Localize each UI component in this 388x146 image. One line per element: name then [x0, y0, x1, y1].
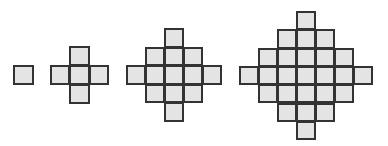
square-tile [164, 102, 184, 122]
square-tile [164, 65, 184, 85]
square-tile [145, 84, 165, 104]
square-tile [334, 66, 354, 85]
square-tile [69, 65, 89, 85]
square-tile [89, 65, 109, 85]
square-tile [296, 103, 316, 122]
square-tile [334, 48, 354, 67]
square-tile [277, 29, 297, 48]
square-tile [315, 66, 335, 85]
square-tile [183, 84, 203, 104]
square-tile [183, 47, 203, 67]
square-tile [69, 84, 89, 104]
square-tile [239, 66, 259, 85]
square-tile [258, 66, 278, 85]
square-tile [315, 29, 335, 48]
square-tile [145, 47, 165, 67]
square-tile [164, 84, 184, 104]
square-tile [164, 47, 184, 67]
square-tile [258, 48, 278, 67]
square-tile [164, 28, 184, 48]
square-tile [353, 66, 373, 85]
square-tile [296, 48, 316, 67]
square-tile [296, 29, 316, 48]
square-tile [145, 65, 165, 85]
square-tile [296, 84, 316, 103]
square-tile [50, 65, 70, 85]
square-tile [126, 65, 146, 85]
square-tile [296, 11, 316, 30]
square-tile [296, 121, 316, 140]
square-tile [69, 46, 89, 66]
square-tile [277, 103, 297, 122]
square-tile [277, 66, 297, 85]
square-tile [315, 84, 335, 103]
square-tile [296, 66, 316, 85]
square-tile [13, 65, 34, 85]
square-tile [183, 65, 203, 85]
square-tile [202, 65, 222, 85]
square-tile [258, 84, 278, 103]
square-tile [277, 48, 297, 67]
square-tile [334, 84, 354, 103]
square-tile [315, 48, 335, 67]
square-tile [315, 103, 335, 122]
square-tile [277, 84, 297, 103]
